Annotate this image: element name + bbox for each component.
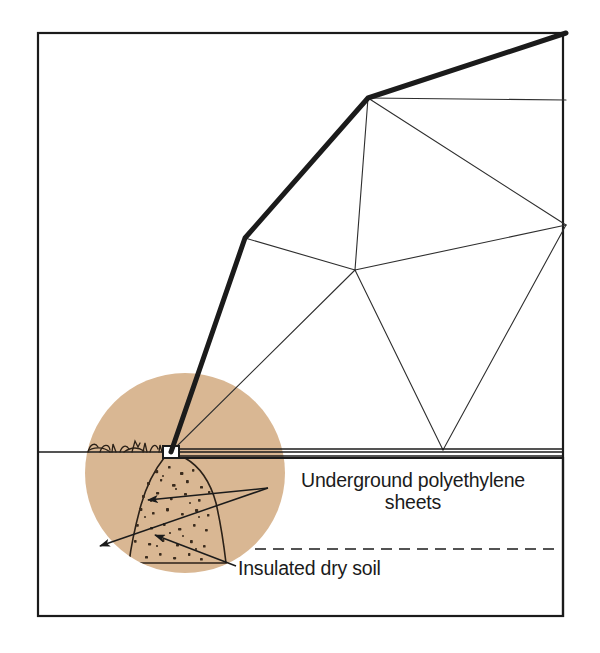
label-insulated-dry-soil: Insulated dry soil — [238, 558, 538, 580]
soil-detail-magnifier-circle — [85, 373, 285, 573]
kite-spar-horizontal — [368, 98, 566, 100]
kite-edge-left-center — [245, 238, 355, 270]
kite-edge-upper-right — [368, 98, 566, 225]
kite-edge-center-right — [355, 225, 566, 270]
figure-root: Underground polyethylene sheets Insulate… — [0, 0, 600, 653]
label-underground-polyethylene-sheets: Underground polyethylene sheets — [268, 470, 558, 514]
kite-edge-right-bottom — [443, 225, 566, 450]
diagram-canvas — [0, 0, 600, 653]
kite-edge-center-bottom — [355, 270, 443, 450]
kite-edge-upper-center — [355, 98, 368, 270]
